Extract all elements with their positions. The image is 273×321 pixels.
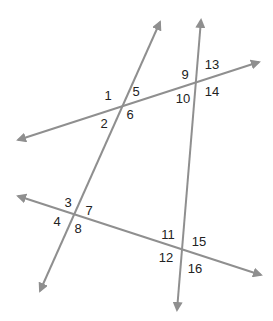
angle-label-2: 2 <box>100 116 107 131</box>
angle-label-7: 7 <box>85 203 92 218</box>
angle-label-1: 1 <box>104 88 111 103</box>
angle-label-8: 8 <box>74 221 81 236</box>
angle-label-13: 13 <box>205 57 219 72</box>
line-lower-line <box>18 196 261 275</box>
angle-label-5: 5 <box>132 84 139 99</box>
angle-label-14: 14 <box>205 84 219 99</box>
transversal-diagram: 12345678910111213141516 <box>0 0 273 321</box>
line-upper-line <box>18 62 259 140</box>
angle-label-16: 16 <box>188 261 202 276</box>
angle-label-15: 15 <box>192 234 206 249</box>
angle-label-6: 6 <box>126 107 133 122</box>
angle-label-9: 9 <box>181 67 188 82</box>
angle-label-10: 10 <box>176 91 190 106</box>
transversal-left-line <box>40 22 160 291</box>
angle-label-3: 3 <box>64 195 71 210</box>
angle-label-11: 11 <box>161 227 175 242</box>
angle-label-12: 12 <box>159 250 173 265</box>
angle-label-4: 4 <box>53 214 60 229</box>
lines-group <box>18 20 261 310</box>
